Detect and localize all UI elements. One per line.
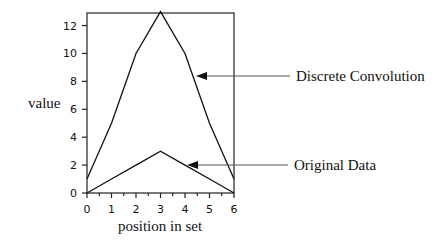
y-tick-label: 4 <box>70 131 77 144</box>
x-tick-label: 3 <box>157 203 164 216</box>
x-tick-label: 1 <box>108 203 115 216</box>
series-discrete-convolution <box>87 12 234 179</box>
y-tick-label: 6 <box>70 103 77 116</box>
x-tick-label: 4 <box>182 203 189 216</box>
x-axis: 0123456 <box>84 193 238 216</box>
x-tick-label: 5 <box>206 203 213 216</box>
annotations <box>187 72 290 169</box>
x-tick-label: 2 <box>133 203 140 216</box>
y-tick-label: 12 <box>63 20 77 33</box>
chart: 024681012 0123456 value position in set … <box>0 0 442 248</box>
x-tick-label: 0 <box>84 203 91 216</box>
series-lines <box>87 12 234 193</box>
series-original-data <box>87 151 234 193</box>
y-tick-label: 10 <box>63 47 77 60</box>
y-axis: 024681012 <box>63 20 87 200</box>
plot-frame <box>87 13 234 193</box>
annotation-discrete-convolution: Discrete Convolution <box>296 68 425 84</box>
y-tick-label: 8 <box>70 75 77 88</box>
x-axis-label: position in set <box>118 218 203 234</box>
y-tick-label: 2 <box>70 159 77 172</box>
plot-border <box>87 13 234 193</box>
annotation-original-data: Original Data <box>294 157 376 173</box>
arrowhead-icon <box>196 72 207 80</box>
y-tick-label: 0 <box>70 187 77 200</box>
y-axis-label: value <box>28 95 61 111</box>
x-tick-label: 6 <box>231 203 238 216</box>
